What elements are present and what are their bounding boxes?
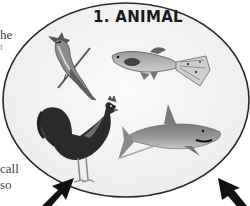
arrow-icon <box>42 178 74 206</box>
category-ellipse <box>3 3 249 197</box>
category-title: 1. ANIMAL <box>93 8 183 26</box>
animal-diagram <box>0 0 250 206</box>
arrow-icon <box>218 178 247 206</box>
